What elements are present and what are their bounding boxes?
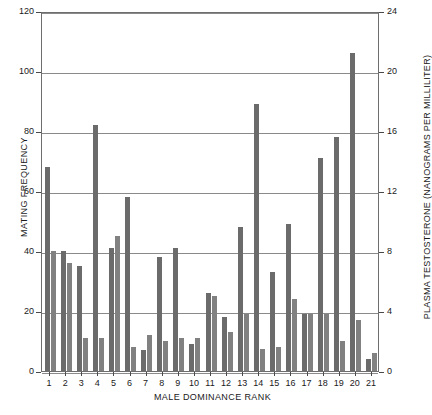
y-tick-label-right-12: 12 bbox=[387, 187, 397, 196]
bar-group-rank-16 bbox=[286, 13, 297, 371]
x-tick-1 bbox=[49, 372, 50, 376]
y-tick-label-right-20: 20 bbox=[387, 67, 397, 76]
x-tick-3 bbox=[81, 372, 82, 376]
bar-mating-frequency-rank-5 bbox=[109, 248, 114, 371]
bar-mating-frequency-rank-3 bbox=[77, 266, 82, 371]
bar-group-rank-20 bbox=[350, 13, 361, 371]
bar-plasma-testosterone-rank-15 bbox=[276, 347, 281, 371]
y-tick-right-20 bbox=[379, 72, 384, 73]
bar-plasma-testosterone-rank-16 bbox=[292, 299, 297, 371]
bar-mating-frequency-rank-18 bbox=[318, 158, 323, 371]
y-tick-label-right-0: 0 bbox=[387, 367, 392, 376]
y-tick-right-16 bbox=[379, 132, 384, 133]
x-tick-2 bbox=[65, 372, 66, 376]
y-tick-right-4 bbox=[379, 312, 384, 313]
y-tick-label-left-0: 0 bbox=[29, 367, 34, 376]
bar-mating-frequency-rank-2 bbox=[61, 251, 66, 371]
bar-plasma-testosterone-rank-2 bbox=[67, 263, 72, 371]
x-tick-12 bbox=[226, 372, 227, 376]
bar-plasma-testosterone-rank-4 bbox=[99, 338, 104, 371]
bar-plasma-testosterone-rank-1 bbox=[51, 251, 56, 371]
bar-plasma-testosterone-rank-7 bbox=[147, 335, 152, 371]
bar-group-rank-14 bbox=[254, 13, 265, 371]
y-tick-left-120 bbox=[36, 12, 41, 13]
bars-layer bbox=[42, 13, 378, 371]
bar-group-rank-8 bbox=[157, 13, 168, 371]
x-tick-13 bbox=[242, 372, 243, 376]
bar-mating-frequency-rank-13 bbox=[238, 227, 243, 371]
bar-mating-frequency-rank-9 bbox=[173, 248, 178, 371]
bar-group-rank-4 bbox=[93, 13, 104, 371]
y-tick-left-0 bbox=[36, 372, 41, 373]
bar-mating-frequency-rank-4 bbox=[93, 125, 98, 371]
x-tick-19 bbox=[339, 372, 340, 376]
bar-mating-frequency-rank-10 bbox=[189, 344, 194, 371]
bar-mating-frequency-rank-17 bbox=[302, 314, 307, 371]
y-tick-label-left-80: 80 bbox=[24, 127, 34, 136]
bar-plasma-testosterone-rank-3 bbox=[83, 338, 88, 371]
y-tick-left-100 bbox=[36, 72, 41, 73]
bar-mating-frequency-rank-16 bbox=[286, 224, 291, 371]
x-tick-11 bbox=[210, 372, 211, 376]
x-tick-5 bbox=[113, 372, 114, 376]
y-tick-right-8 bbox=[379, 252, 384, 253]
y-tick-label-left-100: 100 bbox=[19, 67, 34, 76]
bar-group-rank-7 bbox=[141, 13, 152, 371]
x-tick-17 bbox=[307, 372, 308, 376]
x-tick-16 bbox=[290, 372, 291, 376]
x-tick-7 bbox=[146, 372, 147, 376]
bar-group-rank-6 bbox=[125, 13, 136, 371]
x-tick-21 bbox=[371, 372, 372, 376]
bar-plasma-testosterone-rank-9 bbox=[179, 338, 184, 371]
bar-group-rank-10 bbox=[189, 13, 200, 371]
bar-group-rank-17 bbox=[302, 13, 313, 371]
bar-mating-frequency-rank-12 bbox=[222, 317, 227, 371]
bar-plasma-testosterone-rank-13 bbox=[244, 314, 249, 371]
bar-plasma-testosterone-rank-21 bbox=[372, 353, 377, 371]
bar-mating-frequency-rank-1 bbox=[45, 167, 50, 371]
bar-group-rank-15 bbox=[270, 13, 281, 371]
y-tick-label-right-4: 4 bbox=[387, 307, 392, 316]
bar-group-rank-1 bbox=[45, 13, 56, 371]
x-tick-4 bbox=[97, 372, 98, 376]
bar-mating-frequency-rank-19 bbox=[334, 137, 339, 371]
bar-plasma-testosterone-rank-12 bbox=[228, 332, 233, 371]
bar-mating-frequency-rank-21 bbox=[366, 359, 371, 371]
bar-group-rank-9 bbox=[173, 13, 184, 371]
bar-mating-frequency-rank-8 bbox=[157, 257, 162, 371]
bar-plasma-testosterone-rank-5 bbox=[115, 236, 120, 371]
bar-plasma-testosterone-rank-10 bbox=[195, 338, 200, 371]
bar-mating-frequency-rank-15 bbox=[270, 272, 275, 371]
bar-group-rank-5 bbox=[109, 13, 120, 371]
bar-mating-frequency-rank-11 bbox=[206, 293, 211, 371]
y-tick-label-left-60: 60 bbox=[24, 187, 34, 196]
y-tick-label-right-16: 16 bbox=[387, 127, 397, 136]
bar-group-rank-13 bbox=[238, 13, 249, 371]
bar-plasma-testosterone-rank-19 bbox=[340, 341, 345, 371]
y-tick-label-left-120: 120 bbox=[19, 7, 34, 16]
x-tick-20 bbox=[355, 372, 356, 376]
bar-plasma-testosterone-rank-14 bbox=[260, 349, 265, 372]
y-tick-left-60 bbox=[36, 192, 41, 193]
y-tick-right-24 bbox=[379, 12, 384, 13]
y-tick-label-left-20: 20 bbox=[24, 307, 34, 316]
bar-group-rank-21 bbox=[366, 13, 377, 371]
x-tick-label-21: 21 bbox=[361, 378, 381, 388]
y-axis-title-right: PLASMA TESTOSTERONE (NANOGRAMS PER MILLI… bbox=[422, 47, 432, 327]
bar-mating-frequency-rank-20 bbox=[350, 53, 355, 371]
x-tick-18 bbox=[323, 372, 324, 376]
bar-group-rank-11 bbox=[206, 13, 217, 371]
bar-mating-frequency-rank-6 bbox=[125, 197, 130, 371]
bar-plasma-testosterone-rank-17 bbox=[308, 314, 313, 371]
bar-plasma-testosterone-rank-6 bbox=[131, 347, 136, 371]
x-tick-9 bbox=[178, 372, 179, 376]
y-tick-label-right-24: 24 bbox=[387, 7, 397, 16]
x-tick-15 bbox=[274, 372, 275, 376]
bar-plasma-testosterone-rank-18 bbox=[324, 314, 329, 371]
bar-group-rank-18 bbox=[318, 13, 329, 371]
y-tick-label-left-40: 40 bbox=[24, 247, 34, 256]
bar-plasma-testosterone-rank-20 bbox=[356, 320, 361, 371]
bar-mating-frequency-rank-7 bbox=[141, 350, 146, 371]
bar-plasma-testosterone-rank-11 bbox=[212, 296, 217, 371]
